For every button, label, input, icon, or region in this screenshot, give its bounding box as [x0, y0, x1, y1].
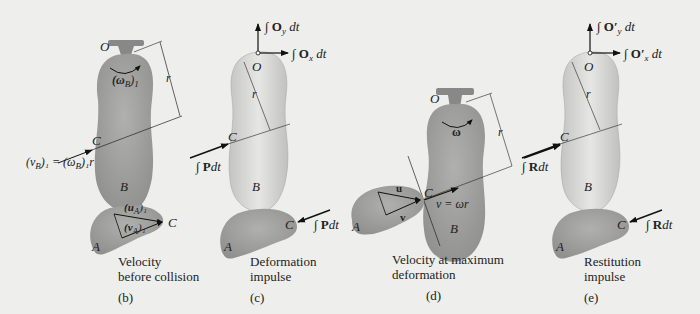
restitution-impulse-arrow — [522, 144, 560, 158]
pivot-support — [436, 88, 474, 95]
label-omega: ω — [452, 126, 461, 138]
label-r-dt: ∫ Rdt — [522, 160, 548, 173]
label-a: A — [556, 240, 564, 253]
label-r-dt-a: ∫ Rdt — [646, 218, 672, 231]
pivot-point — [588, 51, 592, 55]
label-p-dt: ∫ Pdt — [196, 160, 221, 173]
label-b: B — [120, 180, 128, 193]
label-v: v — [400, 212, 406, 223]
label-o: O — [430, 92, 439, 105]
label-o: O — [252, 60, 261, 73]
label-r: r — [586, 88, 591, 100]
label-a: A — [352, 220, 360, 233]
label-o: O — [100, 40, 109, 53]
label-c: C — [424, 186, 433, 199]
label-omega-b1: (ωB)1 — [112, 74, 139, 89]
pivot-point — [256, 51, 260, 55]
label-b: B — [252, 180, 260, 193]
caption-e: Restitution impulse (e) — [584, 254, 641, 305]
label-a: A — [224, 240, 232, 253]
label-ua1: (uA)₁ — [124, 202, 147, 216]
label-r: r — [498, 126, 503, 138]
label-c: C — [92, 134, 101, 147]
label-p-dt-a: ∫ Pdt — [314, 218, 339, 231]
label-a: A — [92, 240, 100, 253]
caption-b: Velocity before collision (b) — [118, 254, 199, 305]
label-c: C — [228, 130, 237, 143]
panel-label-e: (e) — [584, 290, 641, 305]
label-b: B — [584, 180, 592, 193]
label-u: u — [396, 183, 402, 194]
label-c2: C — [617, 218, 626, 231]
panel-label-d: (d) — [392, 288, 504, 303]
label-vb-equation: (vB)₁ = (ωB)₁r — [26, 156, 94, 171]
caption-d: Velocity at maximum deformation (d) — [392, 252, 504, 303]
label-c2: C — [285, 218, 294, 231]
panel-label-b: (b) — [118, 290, 199, 305]
label-oy-prime-dt: ∫ O′y dt — [597, 20, 635, 36]
label-va1: (vA)₁ — [124, 222, 146, 236]
label-o: O — [584, 60, 593, 73]
deformation-impulse-arrow — [190, 144, 228, 158]
body-a — [351, 186, 424, 235]
label-c: C — [560, 130, 569, 143]
label-v-eq: v = ωr — [436, 198, 469, 210]
pivot-support — [108, 40, 144, 46]
panel-label-c: (c) — [250, 290, 316, 305]
label-c2: C — [168, 216, 177, 229]
label-r: r — [252, 88, 257, 100]
label-r: r — [166, 72, 171, 84]
caption-c: Deformation impulse (c) — [250, 254, 316, 305]
label-ox-dt: ∫ Ox dt — [292, 47, 326, 63]
label-ox-prime-dt: ∫ O′x dt — [624, 47, 662, 63]
label-b: B — [450, 222, 458, 235]
label-oy-dt: ∫ Oy dt — [265, 20, 299, 36]
